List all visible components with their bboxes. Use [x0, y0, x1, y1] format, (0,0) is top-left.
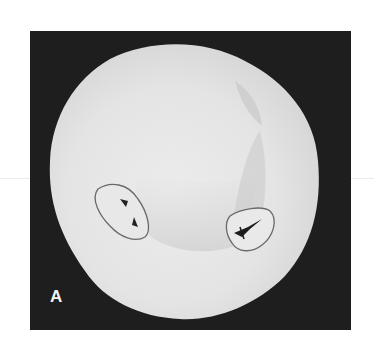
figure-panel-a: A	[30, 31, 351, 330]
tooth-illustration	[30, 31, 351, 330]
panel-label: A	[50, 288, 62, 305]
